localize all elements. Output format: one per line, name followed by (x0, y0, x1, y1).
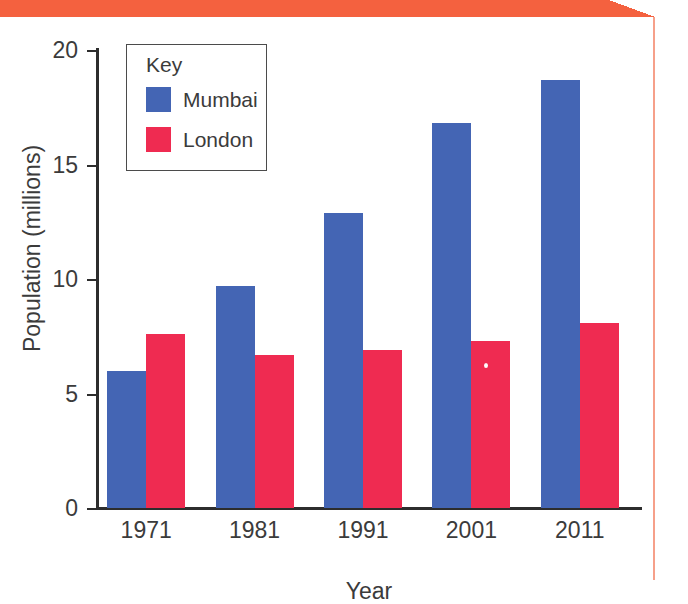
y-axis-tick-label: 10 (52, 268, 78, 291)
bar-group (541, 50, 619, 508)
x-axis-tick-label: 2011 (527, 517, 633, 544)
print-speck (484, 363, 488, 368)
legend-label-mumbai: Mumbai (183, 88, 258, 112)
y-axis-tick: 20 (87, 50, 96, 52)
y-axis-tick: 0 (87, 508, 96, 510)
y-axis-tick-label: 5 (65, 383, 78, 406)
y-axis-tick-label: 15 (52, 154, 78, 177)
bar-london-1991 (363, 350, 402, 508)
orange-banner (0, 0, 655, 17)
x-axis-tick-label: 2001 (418, 517, 524, 544)
legend-title: Key (146, 53, 182, 77)
bar-group (432, 50, 510, 508)
y-axis-tick-label: 20 (52, 39, 78, 62)
bar-mumbai-1991 (324, 213, 363, 508)
bar-mumbai-1981 (216, 286, 255, 508)
bar-london-2001 (471, 341, 510, 508)
bar-london-1971 (146, 334, 185, 508)
y-axis-tick: 5 (87, 394, 96, 396)
legend-swatch-london (146, 127, 171, 152)
x-axis-tick-label: 1981 (202, 517, 308, 544)
legend-box: Key Mumbai London (126, 44, 267, 171)
legend-item-mumbai: Mumbai (146, 87, 258, 112)
x-axis-title: Year (98, 578, 640, 604)
bar-mumbai-2001 (432, 123, 471, 508)
legend-item-london: London (146, 127, 253, 152)
corner-notch-icon (609, 0, 655, 17)
y-axis-tick-label: 0 (65, 497, 78, 520)
bar-mumbai-1971 (107, 371, 146, 508)
bar-chart: 05101520 Population (millions) Year 1971… (0, 17, 655, 604)
bar-group (324, 50, 402, 508)
legend-swatch-mumbai (146, 87, 171, 112)
legend-label-london: London (183, 128, 253, 152)
y-axis-tick: 10 (87, 279, 96, 281)
bar-london-1981 (255, 355, 294, 508)
x-axis-tick-label: 1971 (93, 517, 199, 544)
y-axis-title: Population (millions) (19, 49, 46, 449)
chart-page: 05101520 Population (millions) Year 1971… (0, 0, 688, 604)
y-axis-tick: 15 (87, 165, 96, 167)
bar-london-2011 (580, 323, 619, 508)
x-axis-tick-label: 1991 (310, 517, 416, 544)
bar-mumbai-2011 (541, 80, 580, 508)
